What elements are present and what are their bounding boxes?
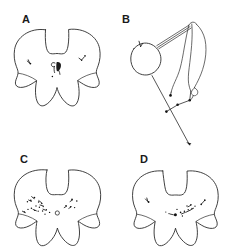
- centre-dot-d: [174, 213, 177, 216]
- panel-label-b: B: [122, 14, 130, 25]
- mark-left-a: [27, 60, 31, 65]
- panel-c: C: [0, 146, 118, 251]
- mark-dot-a-1: [52, 76, 54, 78]
- panel-d: D: [118, 146, 233, 251]
- panel-b-drawing: [112, 0, 233, 160]
- mark-right-d: [200, 199, 205, 205]
- panel-a: A: [0, 0, 116, 125]
- panel-c-drawing: [0, 146, 118, 251]
- mark-right-c: [64, 199, 77, 209]
- terminal-dot-group-b-1: [169, 92, 172, 97]
- panel-label-c: C: [20, 154, 28, 165]
- stipple-cluster-d: [165, 204, 195, 217]
- pointer-line-b: [152, 76, 190, 145]
- specimen-outline-d: [133, 171, 219, 246]
- central-marking-a: [51, 62, 61, 74]
- figure-root: A: [0, 0, 233, 251]
- panel-label-d: D: [140, 154, 148, 165]
- pointer-arrowhead-b: [186, 142, 191, 145]
- stipple-cluster-c: [22, 197, 50, 215]
- centre-circle-c: [55, 211, 59, 215]
- loop-cluster-b: [191, 88, 197, 96]
- inner-cleft-left-a: [18, 73, 36, 80]
- panel-b: B: [112, 0, 233, 160]
- inner-cleft-right-c: [78, 214, 97, 221]
- terminal-dot-group-b-3: [176, 100, 189, 106]
- panel-a-drawing: [0, 0, 116, 125]
- mark-left-d: [145, 198, 149, 203]
- strand-b-3: [194, 24, 206, 87]
- inner-cleft-left-d: [137, 214, 155, 221]
- mark-right-a: [79, 55, 86, 61]
- needle-line-b-1: [157, 25, 189, 45]
- panel-label-a: A: [22, 14, 30, 25]
- panel-d-drawing: [118, 146, 233, 251]
- specimen-outline-c: [14, 170, 100, 246]
- inner-cleft-right-d: [196, 214, 214, 221]
- inner-cleft-left-c: [19, 214, 37, 221]
- polygon-outline-b: [131, 43, 161, 75]
- terminal-dot-group-b-2: [188, 91, 191, 101]
- inner-cleft-right-a: [78, 73, 97, 81]
- strand-top-connector-b: [189, 22, 197, 25]
- loop-tail-b: [190, 96, 193, 101]
- strand-b-2: [188, 24, 192, 91]
